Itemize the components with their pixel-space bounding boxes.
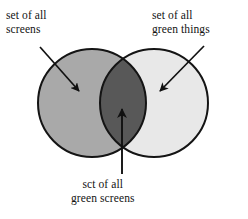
intersection-label-line1: sct of all [71,177,135,191]
left-set-label-line2: screens [6,22,47,36]
right-set-label-line2: green things [152,22,210,36]
left-set-label-line1: set of all [6,8,47,22]
venn-diagram-figure: set of all screens set of all green thin… [0,0,248,219]
right-set-label-line1: set of all [152,8,210,22]
intersection-label-line2: green screens [71,191,135,205]
intersection-label: sct of all green screens [71,177,135,205]
right-set-label: set of all green things [152,8,210,36]
left-set-label: set of all screens [6,8,47,36]
